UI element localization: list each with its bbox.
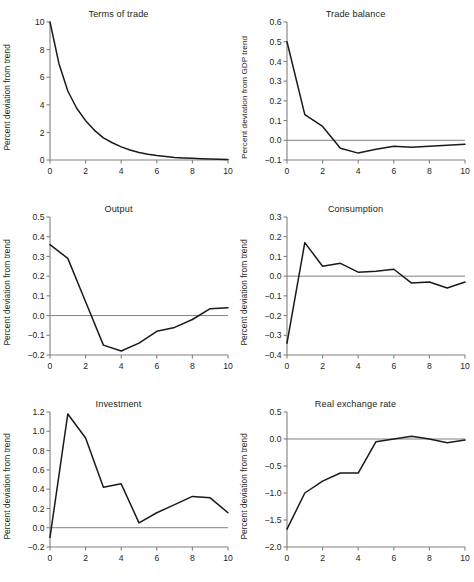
svg-text:0.8: 0.8 bbox=[33, 446, 45, 456]
panel-investment: Investment Percent deviation from trend … bbox=[0, 390, 237, 582]
svg-text:4: 4 bbox=[40, 100, 45, 110]
svg-text:0: 0 bbox=[285, 166, 290, 176]
svg-text:−2.0: −2.0 bbox=[265, 542, 282, 552]
svg-text:8: 8 bbox=[427, 553, 432, 563]
svg-text:−0.2: −0.2 bbox=[28, 542, 45, 552]
svg-text:0.0: 0.0 bbox=[33, 523, 45, 533]
svg-text:2: 2 bbox=[83, 361, 88, 371]
svg-text:1.0: 1.0 bbox=[33, 426, 45, 436]
svg-text:2: 2 bbox=[320, 553, 325, 563]
svg-text:0.0: 0.0 bbox=[270, 271, 282, 281]
svg-text:10: 10 bbox=[223, 553, 233, 563]
svg-text:2: 2 bbox=[320, 166, 325, 176]
plot-area-consumption: −0.4−0.3−0.2−0.10.00.10.20.30246810 bbox=[237, 195, 474, 390]
svg-text:0.4: 0.4 bbox=[270, 57, 282, 67]
figure-panel-grid: Terms of trade Percent deviation from tr… bbox=[0, 0, 474, 582]
svg-text:−0.2: −0.2 bbox=[265, 311, 282, 321]
svg-text:−0.1: −0.1 bbox=[265, 155, 282, 165]
svg-text:0.3: 0.3 bbox=[33, 252, 45, 262]
svg-text:−0.1: −0.1 bbox=[265, 291, 282, 301]
panel-real-exchange-rate: Real exchange rate Percent deviation fro… bbox=[237, 390, 474, 582]
svg-text:0.1: 0.1 bbox=[270, 252, 282, 262]
svg-text:4: 4 bbox=[119, 361, 124, 371]
svg-text:0.6: 0.6 bbox=[270, 17, 282, 27]
svg-text:0.5: 0.5 bbox=[270, 407, 282, 417]
svg-text:6: 6 bbox=[154, 166, 159, 176]
panel-consumption: Consumption Percent deviation from trend… bbox=[237, 195, 474, 390]
svg-text:−0.3: −0.3 bbox=[265, 330, 282, 340]
svg-text:8: 8 bbox=[427, 361, 432, 371]
svg-text:−0.4: −0.4 bbox=[265, 350, 282, 360]
svg-text:8: 8 bbox=[40, 45, 45, 55]
panel-trade-balance: Trade balance Percent deviation from GDP… bbox=[237, 0, 474, 195]
svg-text:10: 10 bbox=[223, 166, 233, 176]
svg-text:0: 0 bbox=[48, 166, 53, 176]
svg-text:4: 4 bbox=[119, 553, 124, 563]
svg-text:10: 10 bbox=[35, 17, 45, 27]
plot-area-investment: −0.20.00.20.40.60.81.01.20246810 bbox=[0, 390, 237, 582]
svg-text:6: 6 bbox=[154, 553, 159, 563]
plot-area-output: −0.2−0.10.00.10.20.30.40.50246810 bbox=[0, 195, 237, 390]
plot-area-real-exchange-rate: −2.0−1.5−1.0−0.50.00.50246810 bbox=[237, 390, 474, 582]
svg-text:10: 10 bbox=[460, 553, 470, 563]
svg-text:10: 10 bbox=[460, 361, 470, 371]
svg-text:−0.1: −0.1 bbox=[28, 330, 45, 340]
svg-text:8: 8 bbox=[190, 553, 195, 563]
svg-text:0.3: 0.3 bbox=[270, 212, 282, 222]
plot-area-terms-of-trade: 02468100246810 bbox=[0, 0, 237, 195]
svg-text:−1.5: −1.5 bbox=[265, 515, 282, 525]
svg-text:8: 8 bbox=[190, 166, 195, 176]
svg-text:10: 10 bbox=[460, 166, 470, 176]
svg-text:4: 4 bbox=[119, 166, 124, 176]
svg-text:0: 0 bbox=[285, 553, 290, 563]
svg-text:0.4: 0.4 bbox=[33, 484, 45, 494]
svg-text:4: 4 bbox=[356, 361, 361, 371]
svg-text:0.3: 0.3 bbox=[270, 76, 282, 86]
svg-text:0.4: 0.4 bbox=[33, 232, 45, 242]
plot-area-trade-balance: −0.10.00.10.20.30.40.50.60246810 bbox=[237, 0, 474, 195]
panel-terms-of-trade: Terms of trade Percent deviation from tr… bbox=[0, 0, 237, 195]
svg-text:0.6: 0.6 bbox=[33, 465, 45, 475]
svg-text:2: 2 bbox=[83, 166, 88, 176]
svg-text:−0.2: −0.2 bbox=[28, 350, 45, 360]
svg-text:6: 6 bbox=[40, 72, 45, 82]
svg-text:2: 2 bbox=[40, 128, 45, 138]
svg-text:6: 6 bbox=[391, 361, 396, 371]
svg-text:4: 4 bbox=[356, 166, 361, 176]
svg-text:0.2: 0.2 bbox=[33, 504, 45, 514]
svg-text:0.1: 0.1 bbox=[270, 116, 282, 126]
svg-text:0: 0 bbox=[40, 155, 45, 165]
svg-text:8: 8 bbox=[427, 166, 432, 176]
svg-text:6: 6 bbox=[391, 166, 396, 176]
svg-text:4: 4 bbox=[356, 553, 361, 563]
svg-text:0.5: 0.5 bbox=[33, 212, 45, 222]
svg-text:0.2: 0.2 bbox=[270, 96, 282, 106]
svg-text:10: 10 bbox=[223, 361, 233, 371]
svg-text:0.0: 0.0 bbox=[270, 135, 282, 145]
svg-text:1.2: 1.2 bbox=[33, 407, 45, 417]
svg-text:0: 0 bbox=[285, 361, 290, 371]
svg-text:0.2: 0.2 bbox=[270, 232, 282, 242]
svg-text:−0.5: −0.5 bbox=[265, 461, 282, 471]
svg-text:0: 0 bbox=[48, 361, 53, 371]
svg-text:6: 6 bbox=[154, 361, 159, 371]
svg-text:−1.0: −1.0 bbox=[265, 488, 282, 498]
svg-text:6: 6 bbox=[391, 553, 396, 563]
svg-text:0.5: 0.5 bbox=[270, 37, 282, 47]
panel-output: Output Percent deviation from trend −0.2… bbox=[0, 195, 237, 390]
svg-text:0.0: 0.0 bbox=[33, 311, 45, 321]
svg-text:8: 8 bbox=[190, 361, 195, 371]
svg-text:0.2: 0.2 bbox=[33, 271, 45, 281]
svg-text:0: 0 bbox=[48, 553, 53, 563]
svg-text:0.1: 0.1 bbox=[33, 291, 45, 301]
svg-text:0.0: 0.0 bbox=[270, 434, 282, 444]
svg-text:2: 2 bbox=[320, 361, 325, 371]
svg-text:2: 2 bbox=[83, 553, 88, 563]
